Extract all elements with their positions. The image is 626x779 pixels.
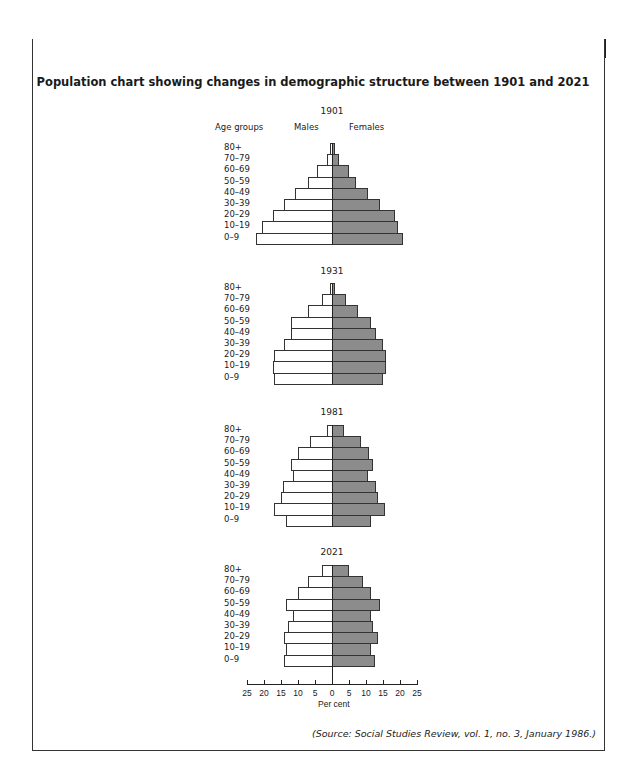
center-line — [332, 143, 333, 245]
center-line — [332, 565, 333, 667]
age-group-label: 50–59 — [224, 598, 250, 608]
age-group-label: 30–39 — [224, 338, 250, 348]
age-group-label: 10–19 — [224, 360, 250, 370]
age-group-label: 40–49 — [224, 187, 250, 197]
female-bar — [332, 233, 403, 245]
x-tick — [349, 680, 350, 685]
age-groups-heading: Age groups — [215, 122, 263, 132]
age-group-label: 40–49 — [224, 609, 250, 619]
center-line — [332, 425, 333, 527]
age-group-label: 30–39 — [224, 620, 250, 630]
females-heading: Females — [349, 122, 384, 132]
age-group-label: 40–49 — [224, 327, 250, 337]
x-tick — [298, 680, 299, 685]
age-group-label: 50–59 — [224, 316, 250, 326]
x-tick — [366, 680, 367, 685]
pyramid-year-label: 1901 — [302, 106, 362, 116]
pyramid-year-label: 1981 — [302, 407, 362, 417]
female-bar — [332, 655, 375, 667]
age-group-label: 20–29 — [224, 631, 250, 641]
chart-title: Population chart showing changes in demo… — [0, 75, 626, 89]
age-group-label: 80+ — [224, 142, 242, 152]
source-citation: (Source: Social Studies Review, vol. 1, … — [312, 728, 596, 739]
x-axis-title: Per cent — [318, 699, 350, 709]
age-group-label: 10–19 — [224, 642, 250, 652]
x-tick — [281, 680, 282, 685]
males-heading: Males — [294, 122, 319, 132]
age-group-label: 70–79 — [224, 153, 250, 163]
age-group-label: 50–59 — [224, 458, 250, 468]
age-group-label: 60–69 — [224, 164, 250, 174]
x-tick — [400, 680, 401, 685]
age-group-label: 0–9 — [224, 514, 239, 524]
x-tick-label: 25 — [407, 688, 427, 698]
female-bar — [332, 515, 371, 527]
age-group-label: 80+ — [224, 424, 242, 434]
center-line — [332, 283, 333, 385]
pyramid-year-label: 2021 — [302, 547, 362, 557]
male-bar — [274, 373, 333, 385]
x-tick — [383, 680, 384, 685]
age-group-label: 10–19 — [224, 220, 250, 230]
x-tick — [417, 680, 418, 685]
age-group-label: 60–69 — [224, 446, 250, 456]
age-group-label: 10–19 — [224, 502, 250, 512]
pyramid-year-label: 1931 — [302, 266, 362, 276]
age-group-label: 30–39 — [224, 480, 250, 490]
age-group-label: 60–69 — [224, 586, 250, 596]
age-group-label: 80+ — [224, 282, 242, 292]
age-group-label: 80+ — [224, 564, 242, 574]
age-group-label: 20–29 — [224, 349, 250, 359]
age-group-label: 30–39 — [224, 198, 250, 208]
age-group-label: 70–79 — [224, 435, 250, 445]
age-group-label: 0–9 — [224, 654, 239, 664]
age-group-label: 0–9 — [224, 372, 239, 382]
age-group-label: 60–69 — [224, 304, 250, 314]
male-bar — [284, 655, 333, 667]
x-tick — [264, 680, 265, 685]
age-group-label: 20–29 — [224, 491, 250, 501]
age-group-label: 0–9 — [224, 232, 239, 242]
age-group-label: 70–79 — [224, 293, 250, 303]
age-group-label: 50–59 — [224, 176, 250, 186]
male-bar — [286, 515, 333, 527]
age-group-label: 70–79 — [224, 575, 250, 585]
male-bar — [256, 233, 334, 245]
age-group-label: 40–49 — [224, 469, 250, 479]
x-tick — [332, 680, 333, 685]
x-tick — [247, 680, 248, 685]
age-group-label: 20–29 — [224, 209, 250, 219]
female-bar — [332, 373, 383, 385]
x-tick — [315, 680, 316, 685]
